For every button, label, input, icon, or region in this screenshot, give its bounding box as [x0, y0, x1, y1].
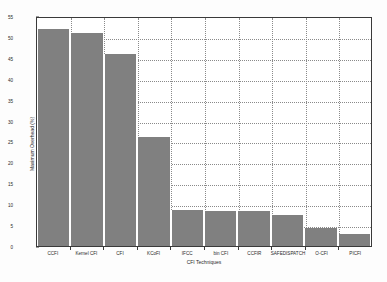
bar-slot — [271, 18, 304, 246]
bar — [104, 54, 137, 246]
x-axis-label: CFI Techniques — [36, 259, 372, 265]
x-axis-tick-mark — [338, 247, 339, 250]
bar — [37, 29, 70, 246]
bar-slot — [70, 18, 103, 246]
x-axis-tick-label: KCoFI — [147, 251, 160, 256]
bar-slot — [237, 18, 270, 246]
x-axis-tick-mark — [271, 247, 272, 250]
y-axis-tick-label: 15 — [8, 182, 13, 187]
y-axis-tick-label: 30 — [8, 119, 13, 124]
x-axis-tick-label: SAFEDISPATCH — [271, 251, 306, 256]
x-axis-tick-label: CCFI — [47, 251, 58, 256]
bar — [237, 211, 270, 246]
bar-slot — [204, 18, 237, 246]
y-axis-tick-label: 10 — [8, 203, 13, 208]
x-axis-tick-label: CCFIR — [247, 251, 261, 256]
x-axis-tick-mark — [103, 247, 104, 250]
bar-slot — [137, 18, 170, 246]
bar — [171, 210, 204, 246]
bar-slot — [304, 18, 337, 246]
bar — [137, 137, 170, 246]
bar — [204, 211, 237, 246]
y-axis-tick-label: 35 — [8, 98, 13, 103]
x-axis-tick-mark — [70, 247, 71, 250]
bar-series — [37, 18, 371, 246]
x-axis-tick-label: O-CFI — [315, 251, 328, 256]
bar-slot — [338, 18, 371, 246]
x-axis-tick-label: CFI — [116, 251, 123, 256]
x-axis-tick-label: PICFI — [349, 251, 361, 256]
y-axis-tick-label: 50 — [8, 35, 13, 40]
x-axis-tick-label: Kernel CFI — [75, 251, 97, 256]
x-axis-tick-mark — [305, 247, 306, 250]
y-axis-tick-label: 20 — [8, 161, 13, 166]
y-axis-tick-label: 5 — [10, 224, 13, 229]
bar-slot — [37, 18, 70, 246]
y-axis-label: Maximum Overhead (%) — [29, 89, 35, 199]
bar — [271, 215, 304, 246]
x-axis-tick-label: bin CFI — [213, 251, 228, 256]
x-axis-tick-label: IFCC — [182, 251, 193, 256]
y-axis-tick-label: 45 — [8, 56, 13, 61]
x-axis-tick-mark — [204, 247, 205, 250]
bar-slot — [104, 18, 137, 246]
y-axis-tick-label: 0 — [10, 245, 13, 250]
x-axis-tick-mark — [170, 247, 171, 250]
y-axis-tick-label: 55 — [8, 15, 13, 20]
bar — [70, 33, 103, 246]
x-axis-tick-mark — [238, 247, 239, 250]
x-axis-tick-mark — [137, 247, 138, 250]
plot-area — [36, 17, 372, 247]
figure-canvas: Maximum Overhead (%) 0510152025303540455… — [0, 0, 387, 282]
bar — [338, 234, 371, 246]
bar — [304, 228, 337, 246]
bar-slot — [171, 18, 204, 246]
y-axis-tick-label: 25 — [8, 140, 13, 145]
y-axis-tick-label: 40 — [8, 77, 13, 82]
